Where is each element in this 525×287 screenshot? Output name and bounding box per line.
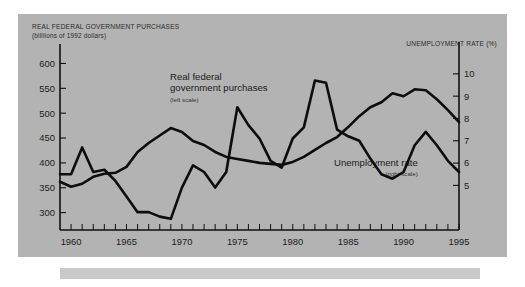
left-axis-tick-label: 450 [39, 132, 55, 143]
decorative-shadow-bar [60, 268, 480, 279]
right-axis-tick-label: 8 [464, 113, 469, 124]
left-axis-tick-label: 350 [39, 182, 55, 193]
right-axis-tick-label: 9 [464, 91, 469, 102]
x-axis-tick-label: 1990 [393, 236, 414, 247]
chart-plot: 3003504004505005506005678910196019651970… [18, 14, 507, 257]
x-axis-tick-label: 1995 [449, 236, 470, 247]
chart-page: REAL FEDERAL GOVERNMENT PURCHASES (billl… [0, 0, 525, 287]
right-axis-tick-label: 5 [464, 180, 469, 191]
figure-panel: REAL FEDERAL GOVERNMENT PURCHASES (billl… [18, 14, 507, 257]
right-axis-tick-label: 10 [464, 68, 474, 79]
left-axis-tick-label: 600 [39, 58, 55, 69]
x-axis-tick-label: 1980 [282, 236, 303, 247]
x-axis-tick-label: 1970 [171, 236, 192, 247]
series-line-unemployment [60, 81, 459, 219]
x-axis-tick-label: 1985 [338, 236, 359, 247]
x-axis-tick-label: 1960 [61, 236, 82, 247]
left-axis-tick-label: 400 [39, 157, 55, 168]
left-axis-tick-label: 300 [39, 207, 55, 218]
left-axis-tick-label: 500 [39, 108, 55, 119]
right-axis-tick-label: 6 [464, 157, 469, 168]
x-axis-tick-label: 1965 [116, 236, 137, 247]
right-axis-tick-label: 7 [464, 135, 469, 146]
x-axis-tick-label: 1975 [227, 236, 248, 247]
left-axis-tick-label: 550 [39, 83, 55, 94]
